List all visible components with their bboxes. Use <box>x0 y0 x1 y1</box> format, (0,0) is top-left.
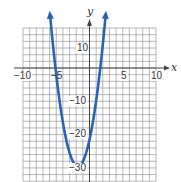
arrowhead-icon <box>47 11 54 19</box>
arrowhead-icon <box>102 11 109 19</box>
axes <box>14 19 170 182</box>
x-axis-label: x <box>171 62 177 73</box>
y-tick-label-neg20: −20 <box>68 129 87 139</box>
y-tick-label-neg30: −30 <box>68 163 87 173</box>
x-tick-label-10: 10 <box>150 71 163 81</box>
x-tick-label-5: 5 <box>120 71 128 81</box>
y-tick-label-neg10: −10 <box>68 96 87 106</box>
y-tick-label-10: 10 <box>76 43 89 53</box>
graph-plot <box>0 0 181 182</box>
y-axis-label: y <box>87 6 93 17</box>
x-tick-label-neg5: −5 <box>50 71 63 81</box>
x-tick-label-neg10: −10 <box>13 71 32 81</box>
